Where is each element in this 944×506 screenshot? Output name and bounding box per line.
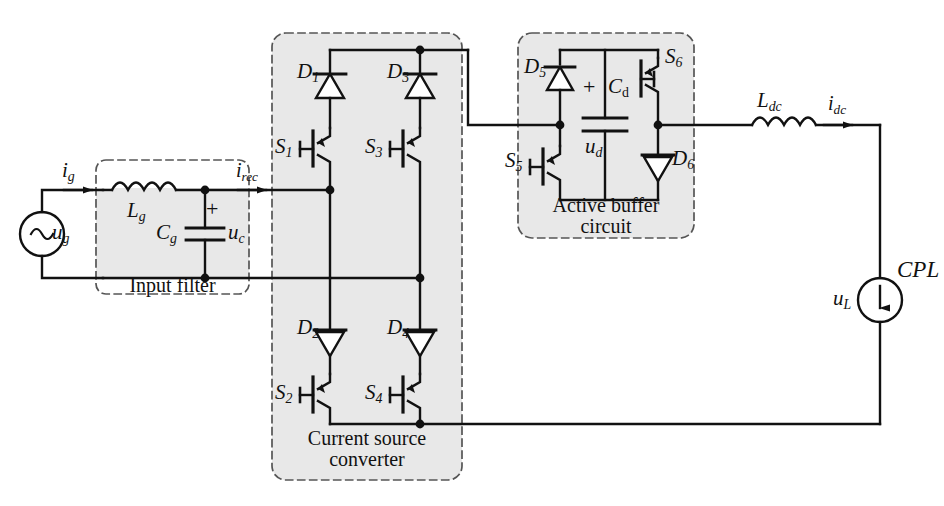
circuit-diagram: ug ig Lg Cg uc + irec D1 D3 D2 D4 S1 S3 …	[0, 0, 944, 506]
label-S5: S5	[505, 150, 522, 174]
label-ud: ud	[585, 136, 602, 160]
label-D2: D2	[297, 317, 319, 341]
label-ug: ug	[52, 222, 69, 246]
label-CPL: CPL	[897, 258, 939, 281]
label-uc: uc	[228, 222, 245, 246]
label-S4: S4	[365, 382, 382, 406]
buffer-label: Active buffer circuit	[518, 195, 694, 237]
buffer-label-line2: circuit	[518, 216, 694, 237]
converter-label-line1: Current source	[272, 428, 462, 449]
label-plus-cd: +	[583, 76, 595, 98]
label-D4: D4	[387, 317, 409, 341]
label-irec: irec	[236, 160, 258, 183]
label-Lg: Lg	[127, 200, 146, 224]
label-S6: S6	[665, 46, 682, 70]
label-S1: S1	[275, 136, 292, 160]
label-D6: D6	[672, 148, 694, 172]
label-D3: D3	[387, 61, 409, 85]
label-Cd: Cd	[608, 76, 629, 100]
input-filter-label: Input filter	[96, 275, 249, 296]
converter-label-line2: converter	[272, 449, 462, 470]
label-ig: ig	[62, 160, 75, 184]
converter-label: Current source converter	[272, 428, 462, 470]
cpl-source	[858, 278, 902, 322]
circuit-canvas	[0, 0, 944, 506]
label-Ldc: Ldc	[757, 90, 782, 114]
label-S2: S2	[275, 382, 292, 406]
inductor-Ldc	[752, 118, 880, 126]
label-uL: uL	[833, 288, 851, 312]
label-Cg: Cg	[156, 222, 177, 246]
label-idc: idc	[828, 93, 846, 116]
buffer-label-line1: Active buffer	[518, 195, 694, 216]
label-D5: D5	[524, 56, 546, 80]
label-S3: S3	[365, 136, 382, 160]
label-D1: D1	[297, 61, 319, 85]
label-plus-cg: +	[206, 198, 218, 220]
